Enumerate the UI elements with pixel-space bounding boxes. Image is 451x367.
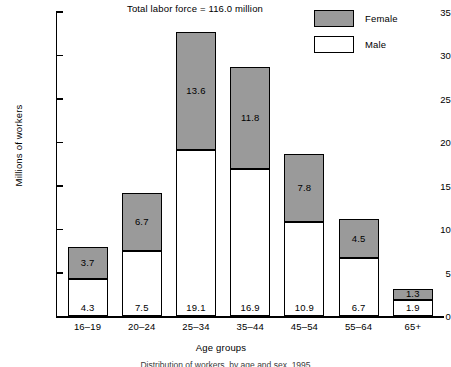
- legend-label-male: Male: [365, 39, 386, 50]
- bar-value-label-male: 16.9: [241, 303, 260, 313]
- legend-label-female: Female: [365, 13, 398, 24]
- bar-segment-female: 4.5: [339, 219, 379, 258]
- bar-value-label-female: 6.7: [135, 217, 149, 227]
- bar-value-label-male: 1.9: [406, 303, 420, 313]
- bar-segment-male: 1.9: [393, 300, 433, 317]
- bar-segment-female: 1.3: [393, 289, 433, 300]
- bar-segment-male: 19.1: [176, 150, 216, 316]
- y-axis-tick: [56, 55, 63, 56]
- y-axis-tick: [56, 229, 63, 230]
- chart-figure: Total labor force = 116.0 million Female…: [0, 0, 451, 367]
- legend-swatch-female-icon: [314, 10, 354, 27]
- bar-value-label-male: 19.1: [186, 303, 205, 313]
- bar-segment-female: 3.7: [68, 247, 108, 279]
- bar-segment-female: 6.7: [122, 193, 162, 251]
- bar-segment-male: 4.3: [68, 279, 108, 316]
- chart-legend: Female Male: [314, 10, 398, 62]
- legend-item-male: Male: [314, 36, 398, 53]
- bar-segment-female: 11.8: [230, 67, 270, 170]
- bar-segment-female: 7.8: [284, 154, 324, 222]
- figure-caption-text: Distribution of workers, by age and sex,…: [0, 360, 451, 367]
- x-axis-tick-label: 45–54: [291, 321, 318, 332]
- y-axis-tick-label: 35: [405, 7, 451, 18]
- y-axis-tick-label: 15: [405, 180, 451, 191]
- bar-segment-male: 16.9: [230, 169, 270, 316]
- bar-value-label-male: 4.3: [81, 303, 95, 313]
- y-axis-tick-label: 20: [405, 137, 451, 148]
- y-axis-tick: [56, 185, 63, 186]
- y-axis-tick-label: 10: [405, 224, 451, 235]
- legend-swatch-male-icon: [314, 36, 354, 53]
- x-axis-tick-label: 25–34: [182, 321, 209, 332]
- y-axis-tick: [56, 11, 63, 12]
- bar-value-label-female: 4.5: [352, 234, 366, 244]
- bar-value-label-female: 3.7: [81, 258, 95, 268]
- x-axis-tick-label: 35–44: [236, 321, 263, 332]
- bar-segment-male: 10.9: [284, 222, 324, 317]
- legend-item-female: Female: [314, 10, 398, 27]
- y-axis-tick-label: 30: [405, 50, 451, 61]
- x-axis-tick-label: 55–64: [345, 321, 372, 332]
- chart-title: Total labor force = 116.0 million: [70, 3, 320, 14]
- x-axis-tick-label: 65+: [404, 321, 421, 332]
- x-axis-title: Age groups: [56, 342, 386, 353]
- x-axis-line: [56, 316, 444, 317]
- y-axis-title: Millions of workers: [13, 81, 24, 211]
- y-axis-tick: [56, 142, 63, 143]
- bar-value-label-female: 7.8: [297, 183, 311, 193]
- y-axis-tick: [56, 272, 63, 273]
- bar-value-label-male: 6.7: [352, 303, 366, 313]
- bar-value-label-female: 1.3: [406, 289, 420, 299]
- y-axis-tick: [56, 98, 63, 99]
- bar-value-label-female: 13.6: [186, 86, 205, 96]
- figure-caption: Distribution of workers, by age and sex,…: [0, 360, 451, 367]
- bar-value-label-male: 10.9: [295, 303, 314, 313]
- y-axis-tick-label: 25: [405, 93, 451, 104]
- x-axis-tick-label: 16–19: [74, 321, 101, 332]
- bar-value-label-male: 7.5: [135, 303, 149, 313]
- y-axis-tick-label: 5: [405, 267, 451, 278]
- bar-segment-female: 13.6: [176, 32, 216, 150]
- bar-value-label-female: 11.8: [241, 113, 260, 123]
- bar-segment-male: 7.5: [122, 251, 162, 316]
- x-axis-tick-label: 20–24: [128, 321, 155, 332]
- bar-segment-male: 6.7: [339, 258, 379, 316]
